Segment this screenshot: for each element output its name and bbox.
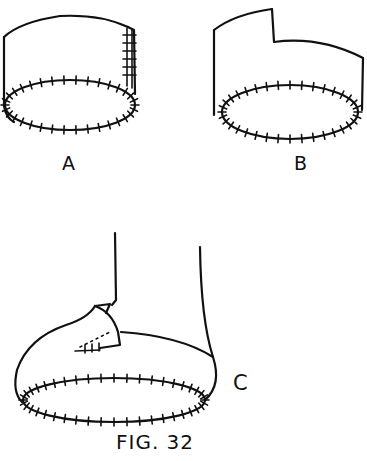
panel-c-drawing [15,233,216,426]
panel-b-drawing [214,9,363,143]
panel-a-drawing [1,16,139,134]
panel-label-a: A [62,152,75,174]
stitch-ticks-icon [1,76,139,134]
stitch-ticks-icon [218,81,362,143]
stitch-ticks-icon [19,374,209,426]
panel-label-b: B [294,152,307,174]
figure-drawing [0,0,367,461]
figure-caption: FIG. 32 [116,430,194,454]
panel-label-c: C [233,371,248,395]
